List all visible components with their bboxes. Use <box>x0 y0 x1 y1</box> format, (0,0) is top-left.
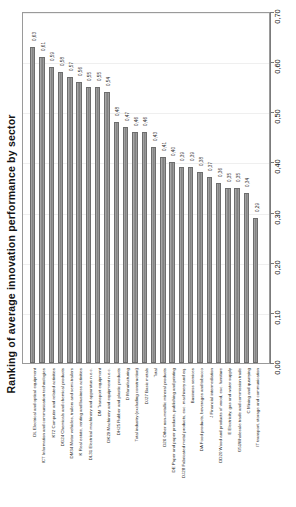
bar-value-label: 0,29 <box>255 203 260 212</box>
bar-value-label: 0,41 <box>162 142 167 151</box>
category-label: Total <box>153 368 158 377</box>
category-label: DJ27 Basic metals <box>144 368 149 404</box>
bar <box>30 47 35 363</box>
bar-item: 0,63 <box>28 12 37 363</box>
bar-value-label: 0,38 <box>199 158 204 167</box>
category-tick: K Real estate, renting and business acti… <box>74 366 83 507</box>
bar <box>58 72 63 363</box>
category-tick: Business services <box>186 366 195 507</box>
category-tick: DD20 Wood and products of wood, exc. fur… <box>214 366 223 507</box>
bar-item: 0,34 <box>242 12 251 363</box>
bar-item: 0,59 <box>47 12 56 363</box>
bar-value-label: 0,37 <box>208 163 213 172</box>
category-tick: Total <box>149 366 158 507</box>
bar <box>39 57 44 363</box>
category-label: D Manufacturing <box>125 368 130 400</box>
bar-value-label: 0,46 <box>134 117 139 126</box>
chart-title-container: Ranking of average innovation performanc… <box>0 0 22 507</box>
axis-tick-label: 0,10 <box>273 310 282 325</box>
bar-item: 0,41 <box>158 12 167 363</box>
bar-value-label: 0,59 <box>50 52 55 61</box>
bar-value-label: 0,57 <box>69 62 74 71</box>
bar-value-label: 0,36 <box>218 168 223 177</box>
category-label: DM Transport equipment <box>97 368 102 416</box>
bar <box>244 193 249 363</box>
bar-value-label: 0,54 <box>106 77 111 86</box>
category-label: DL31 Electrical machinery and apparatus … <box>88 368 93 460</box>
bar-item: 0,43 <box>149 12 158 363</box>
bar <box>123 127 128 363</box>
bar-series: 0,630,610,590,580,570,560,550,550,540,48… <box>22 12 270 363</box>
category-label: DD20 Wood and products of wood, exc. fur… <box>218 368 223 463</box>
category-tick: E Electricity, gas and water supply <box>223 366 232 507</box>
category-label: G51Wholesale trade and commission trade <box>237 368 242 452</box>
category-tick: Total industry (excluding construction) <box>130 366 139 507</box>
axis-tick-label: 0,50 <box>273 109 282 124</box>
bar-item: 0,54 <box>102 12 111 363</box>
bar <box>197 172 202 363</box>
bar <box>253 218 258 363</box>
bar-item: 0,57 <box>65 12 74 363</box>
bar-item: 0,29 <box>251 12 260 363</box>
bar <box>114 122 119 363</box>
bar <box>207 177 212 363</box>
category-label: Total industry (excluding construction) <box>134 368 139 441</box>
bar-item: 0,35 <box>223 12 232 363</box>
category-tick: DM Transport equipment <box>93 366 102 507</box>
bar-item: 0,55 <box>93 12 102 363</box>
bar <box>132 132 137 363</box>
bar-value-label: 0,35 <box>227 173 232 182</box>
category-label: DG24 Chemicals and chemical products <box>60 368 65 446</box>
category-tick: D Manufacturing <box>121 366 130 507</box>
category-tick: DH25 Rubber and plastic products <box>112 366 121 507</box>
category-label: DM34 Motor vehicles, trailers and semi-t… <box>69 368 74 459</box>
category-label: DL Electrical and optical equipment <box>32 368 37 437</box>
axis-tick-label: 0,40 <box>273 160 282 175</box>
category-tick: DM34 Motor vehicles, trailers and semi-t… <box>65 366 74 507</box>
category-tick: D26 Other non-metallic mineral products <box>158 366 167 507</box>
bar-item: 0,36 <box>214 12 223 363</box>
bar <box>234 188 239 364</box>
category-label: D26 Other non-metallic mineral products <box>162 368 167 447</box>
bar <box>225 188 230 364</box>
bar <box>76 82 81 363</box>
bar <box>160 157 165 363</box>
bar-value-label: 0,58 <box>60 57 65 66</box>
bar-item: 0,46 <box>140 12 149 363</box>
bar-item: 0,46 <box>130 12 139 363</box>
bar-value-label: 0,48 <box>115 107 120 116</box>
category-tick: J Financial intermediation <box>205 366 214 507</box>
category-label: DA Food products, beverages and tobacco <box>199 368 204 451</box>
category-tick: DJ27 Basic metals <box>140 366 149 507</box>
axis-line <box>270 12 271 364</box>
category-tick: DA Food products, beverages and tobacco <box>195 366 204 507</box>
category-tick: C Mining and quarrying <box>242 366 251 507</box>
category-label: C Mining and quarrying <box>246 368 251 413</box>
bar <box>169 162 174 363</box>
axis-tick-label: 0,20 <box>273 260 282 275</box>
category-tick: K72 Computer and related activities <box>47 366 56 507</box>
category-label: IT transport, storage and communication <box>255 368 260 447</box>
category-tick: DJ28 Fabricated metal products, exc. mac… <box>177 366 186 507</box>
bar-value-label: 0,40 <box>171 147 176 156</box>
bar-item: 0,55 <box>84 12 93 363</box>
category-axis-labels: DL Electrical and optical equipmentICT I… <box>22 366 270 507</box>
bar-value-label: 0,56 <box>78 67 83 76</box>
category-tick: DK29 Machinery and equipment n.e.c. <box>102 366 111 507</box>
bar-value-label: 0,47 <box>125 112 130 121</box>
bar-value-label: 0,39 <box>190 153 195 162</box>
bar <box>216 183 221 364</box>
bar <box>188 167 193 363</box>
bar <box>67 77 72 363</box>
category-label: DH25 Rubber and plastic products <box>116 368 121 435</box>
category-tick: IT transport, storage and communication <box>251 366 260 507</box>
bar-item: 0,40 <box>167 12 176 363</box>
bar-value-label: 0,43 <box>153 132 158 141</box>
bar-value-label: 0,46 <box>143 117 148 126</box>
axis-tick-label: 0,60 <box>273 59 282 74</box>
bar <box>104 92 109 363</box>
bar-value-label: 0,34 <box>245 178 250 187</box>
bar <box>151 147 156 363</box>
category-label: K Real estate, renting and business acti… <box>78 368 83 455</box>
bar <box>95 87 100 363</box>
